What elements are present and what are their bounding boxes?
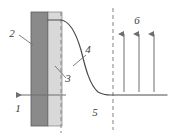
label-5: 5	[92, 106, 98, 118]
light-layer-region	[48, 12, 62, 126]
label-1: 1	[15, 102, 21, 114]
figure-background	[0, 0, 169, 136]
label-3: 3	[64, 72, 71, 84]
figure-container: 1 2 3 4 5 6	[0, 0, 169, 136]
schematic-diagram: 1 2 3 4 5 6	[0, 0, 169, 136]
label-2: 2	[9, 27, 15, 39]
label-4: 4	[85, 43, 91, 55]
label-6: 6	[134, 14, 140, 26]
dark-layer-region	[31, 12, 48, 126]
